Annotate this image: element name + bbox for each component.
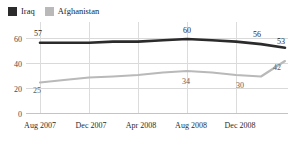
series-line-afghanistan <box>40 61 285 83</box>
legend-label-iraq: Iraq <box>21 7 35 16</box>
data-label-afg-25: 25 <box>33 86 41 95</box>
chart-legend: Iraq Afghanistan <box>8 4 99 18</box>
legend-label-afghanistan: Afghanistan <box>58 7 100 16</box>
x-axis-ticks: Aug 2007 Dec 2007 Apr 2008 Aug 2008 Dec … <box>24 121 255 130</box>
x-tick-dec-2008: Dec 2008 <box>225 121 256 130</box>
x-tick-dec-2007: Dec 2007 <box>76 121 107 130</box>
y-axis-ticks: 60 40 20 0 <box>14 35 22 119</box>
data-label-afg-42: 42 <box>273 63 281 72</box>
data-label-iraq-53: 53 <box>277 37 285 46</box>
y-gridlines <box>26 39 288 89</box>
data-label-afg-30: 30 <box>236 81 244 90</box>
x-gridlines <box>41 22 237 113</box>
square-swatch-icon <box>8 7 17 16</box>
x-tick-apr-2008: Apr 2008 <box>126 121 156 130</box>
data-label-iraq-56: 56 <box>253 30 261 39</box>
y-tick-20: 20 <box>14 85 22 94</box>
legend-item-afghanistan[interactable]: Afghanistan <box>45 7 100 16</box>
x-tick-aug-2007: Aug 2007 <box>24 121 56 130</box>
y-tick-0: 0 <box>18 110 22 119</box>
y-tick-40: 40 <box>14 60 22 69</box>
data-label-afg-34: 34 <box>182 77 190 86</box>
legend-item-iraq[interactable]: Iraq <box>8 7 35 16</box>
data-label-iraq-60: 60 <box>183 26 191 35</box>
series-line-iraq <box>40 39 285 48</box>
line-chart: Iraq Afghanistan <box>0 0 290 145</box>
x-tick-aug-2008: Aug 2008 <box>175 121 207 130</box>
plot-area: 60 40 20 0 57 60 56 53 25 34 30 42 <box>0 18 290 145</box>
plot-svg: 60 40 20 0 57 60 56 53 25 34 30 42 <box>0 18 290 145</box>
square-swatch-icon <box>45 7 54 16</box>
y-tick-60: 60 <box>14 35 22 44</box>
data-label-iraq-57: 57 <box>34 29 42 38</box>
